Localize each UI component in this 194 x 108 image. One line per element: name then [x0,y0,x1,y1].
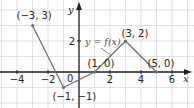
function-graph: −4−2246 2 x y 0 y = f(x) (−3, 3)(−1, −1)… [0,0,194,108]
data-point [124,39,127,42]
data-point [93,70,96,73]
y-axis-arrow-icon [76,2,82,10]
x-tick-label: 2 [107,74,113,85]
y-tick-label: 2 [69,36,75,47]
point-label: (−1, −1) [53,91,97,102]
y-axis-label: y [67,4,74,15]
x-tick-label: −2 [41,74,56,85]
plot-area: −4−2246 2 x y 0 y = f(x) (−3, 3)(−1, −1)… [0,0,194,108]
origin-label: 0 [67,73,73,84]
x-tick-label: 6 [169,74,175,85]
x-tick-label: 4 [138,74,144,85]
function-label: y = f(x) [84,36,121,47]
data-point [155,70,158,73]
data-point [31,24,34,27]
x-axis-label: x [183,73,189,84]
point-label: (1, 0) [88,58,115,69]
x-tick-label: −4 [10,74,25,85]
point-label: (−3, 3) [17,10,52,21]
point-label: (3, 2) [122,28,149,39]
data-point [62,86,65,89]
point-label: (5, 0) [148,58,175,69]
